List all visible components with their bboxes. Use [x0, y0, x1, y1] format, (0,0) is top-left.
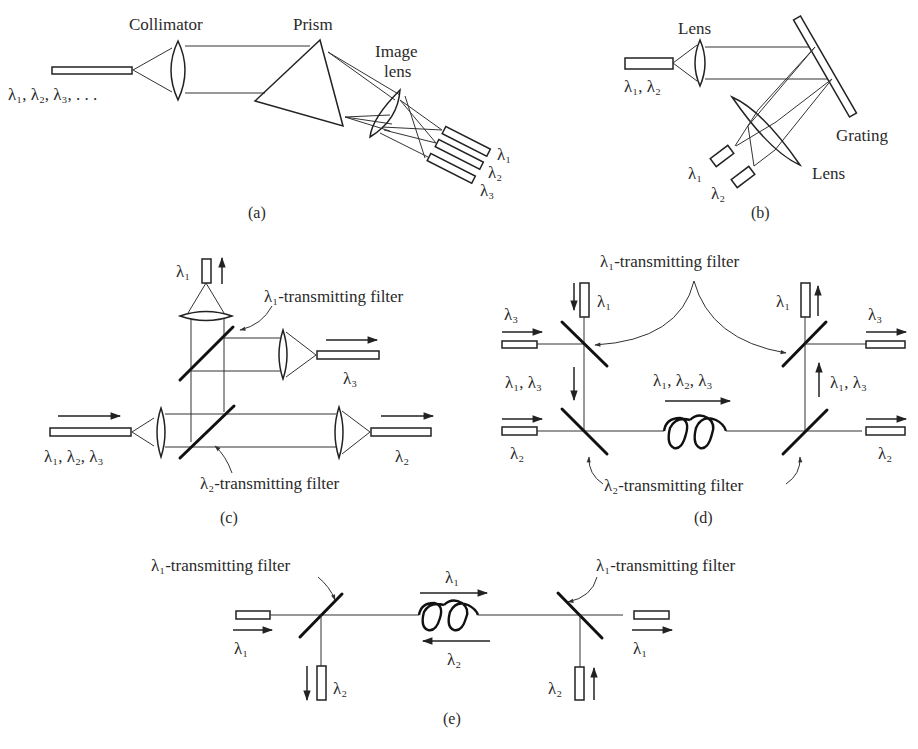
caption-d: (d)	[694, 509, 713, 527]
panel-e-bidirectional-link: λ₁-transmitting filter λ₁-transmitting f…	[151, 556, 736, 728]
input-b-label: λ₁, λ₂	[624, 77, 661, 96]
output-e-lambda2-left-label: λ₂	[333, 679, 347, 698]
detector-e-lambda1	[634, 611, 669, 619]
source-d-lambda1	[580, 283, 589, 317]
detector-e-lambda2-left	[317, 666, 326, 700]
caption-b: (b)	[751, 204, 770, 222]
caption-e: (e)	[443, 710, 461, 728]
grating-label: Grating	[836, 126, 888, 145]
mid-left-d-label: λ₁, λ₃	[505, 373, 542, 392]
fiber-d-label: λ₁, λ₂, λ₃	[653, 371, 713, 390]
prism-label: Prism	[293, 15, 333, 34]
source-e-lambda1	[236, 611, 270, 619]
filter-left-e-label: λ₁-transmitting filter	[151, 556, 291, 575]
lens-bottom-label: Lens	[812, 164, 845, 183]
input-wavelengths-label: λ₁, λ₂, λ₃, . . .	[8, 85, 97, 104]
input-e-lambda2-right-label: λ₂	[548, 679, 562, 698]
output-b-lambda1-label: λ₁	[688, 164, 702, 183]
detector-b-lambda1	[710, 145, 734, 166]
mid-right-d-label: λ₁, λ₃	[830, 373, 867, 392]
output-d-lambda1-label: λ₁	[776, 292, 790, 311]
collimator-label: Collimator	[129, 15, 203, 34]
panel-a-prism-demultiplexer: Collimator Prism Image lens λ₁, λ₂, λ₃, …	[8, 15, 511, 222]
wdm-diagram-figure: Collimator Prism Image lens λ₁, λ₂, λ₃, …	[0, 0, 918, 749]
source-e-lambda2-right	[575, 667, 584, 700]
panel-d-bidirectional-multiplexer: λ₁-transmitting filter λ₁ λ₃ λ₁, λ₃ λ₂ λ…	[502, 252, 906, 527]
fiber-back-e-label: λ₂	[447, 650, 461, 669]
output-fiber-c-lambda3	[317, 351, 379, 359]
filter2-c-label: λ₂-transmitting filter	[200, 474, 340, 493]
output-lambda3-label: λ₃	[480, 181, 494, 200]
fiber-fwd-e-label: λ₁	[445, 568, 459, 587]
output-lambda2-label: λ₂	[488, 163, 502, 182]
source-d-lambda2	[502, 427, 537, 435]
panel-c-filter-demultiplexer: λ₁ λ₁-transmitting filter λ₃ λ₁, λ₂, λ₃	[44, 258, 433, 527]
detector-d-lambda1	[801, 283, 810, 317]
detector-b-lambda2	[731, 166, 755, 187]
lens-c-lambda3	[279, 330, 287, 379]
detector-d-lambda2	[866, 427, 905, 435]
input-d-lambda2-label: λ₂	[510, 444, 524, 463]
output-lambda1-label: λ₁	[497, 145, 511, 164]
output-d-lambda2-label: λ₂	[878, 444, 892, 463]
output-top-lambda1-label: λ₁	[176, 262, 190, 281]
panel-b-grating-demultiplexer: Lens λ₁, λ₂ Grating λ₁ λ₂ Lens (b)	[624, 16, 888, 222]
caption-a: (a)	[248, 204, 266, 222]
output-b-lambda2-label: λ₂	[711, 184, 725, 203]
output-e-lambda1-label: λ₁	[633, 639, 647, 658]
lens-top-label: Lens	[678, 19, 711, 38]
filter1-c-label: λ₁-transmitting filter	[264, 287, 404, 306]
input-c-label: λ₁, λ₂, λ₃	[44, 447, 104, 466]
fiber-coil-d	[664, 415, 726, 448]
image-lens-label-1: Image	[375, 42, 417, 61]
lens-top	[695, 40, 705, 86]
detector-d-lambda3	[866, 341, 905, 348]
lambda1-transmitting-filter-c	[180, 327, 233, 380]
input-d-lambda1-label: λ₁	[597, 292, 611, 311]
lens-c-lambda2	[335, 407, 343, 458]
fiber-coil-e	[419, 600, 478, 630]
input-fiber-b	[625, 58, 673, 69]
output-fiber-c-lambda2	[371, 428, 431, 436]
output-d-lambda3-label: λ₃	[868, 305, 882, 324]
input-d-lambda3-label: λ₃	[504, 305, 518, 324]
output-c-lambda3-label: λ₃	[343, 369, 357, 388]
input-fiber	[52, 67, 132, 74]
filter1-d-label: λ₁-transmitting filter	[600, 252, 740, 271]
input-fiber-c	[50, 428, 131, 436]
filter2-d-label: λ₂-transmitting filter	[604, 476, 744, 495]
collimator-lens	[171, 41, 185, 100]
output-c-lambda2-label: λ₂	[395, 447, 409, 466]
detector-c-lambda1	[202, 259, 211, 283]
collimating-lens-c	[157, 408, 165, 457]
image-lens-label-2: lens	[384, 62, 411, 81]
input-e-lambda1-label: λ₁	[234, 639, 248, 658]
filter-right-e-label: λ₁-transmitting filter	[596, 556, 736, 575]
caption-c: (c)	[220, 509, 238, 527]
source-d-lambda3	[502, 341, 537, 348]
